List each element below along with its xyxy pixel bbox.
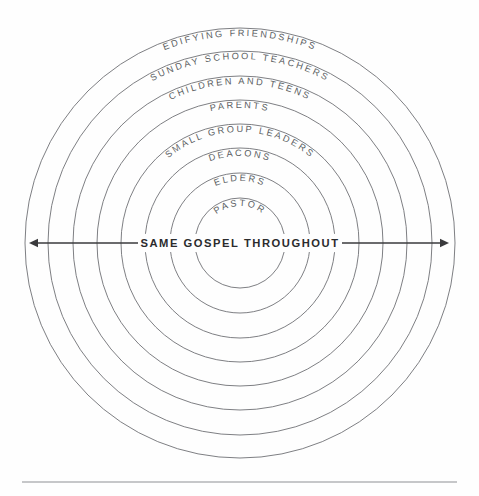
ring-label-2: DEACONS <box>207 148 272 163</box>
ring-label-1: ELDERS <box>213 173 268 188</box>
concentric-rings-diagram: PASTORELDERSDEACONSSMALL GROUP LEADERSPA… <box>0 0 479 496</box>
ring-labels-group: PASTORELDERSDEACONSSMALL GROUP LEADERSPA… <box>149 28 332 216</box>
ring-label-7: EDIFYING FRIENDSHIPS <box>162 28 319 52</box>
ring-label-0: PASTOR <box>212 198 268 216</box>
diagram-page: PASTORELDERSDEACONSSMALL GROUP LEADERSPA… <box>0 0 479 496</box>
ring-label-5: CHILDREN AND TEENS <box>167 76 313 102</box>
arrow-right-icon <box>440 239 449 247</box>
arrow-left-icon <box>29 239 38 247</box>
axis-label: SAME GOSPEL THROUGHOUT <box>140 237 339 249</box>
same-gospel-axis: SAME GOSPEL THROUGHOUT <box>29 234 449 252</box>
ring-label-4: PARENTS <box>209 100 271 113</box>
